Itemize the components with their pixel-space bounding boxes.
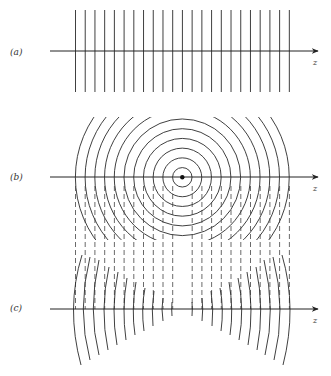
wavefront-diagram: (a) z (b) z (c) z bbox=[0, 0, 331, 376]
panel-a-label: (a) bbox=[10, 47, 23, 57]
panel-b-label: (b) bbox=[10, 172, 23, 182]
point-source-dot-icon bbox=[180, 175, 184, 179]
panel-a: (a) z bbox=[10, 10, 318, 92]
panel-c-label: (c) bbox=[10, 303, 23, 313]
panel-b: (b) z bbox=[10, 70, 318, 284]
z-axis-label-c: z bbox=[312, 316, 318, 325]
dashed-plane-wavefronts bbox=[76, 186, 290, 309]
z-axis-label-b: z bbox=[312, 184, 318, 193]
curved-wavefront-segments bbox=[73, 255, 290, 365]
curved-wavefront-segment bbox=[264, 260, 270, 355]
z-axis-label-a: z bbox=[312, 58, 318, 67]
curved-wavefront-segment bbox=[73, 255, 82, 365]
curved-wavefront-segment bbox=[282, 255, 290, 365]
curved-wavefront-segment bbox=[93, 260, 99, 355]
panel-c: (c) z bbox=[10, 186, 318, 365]
